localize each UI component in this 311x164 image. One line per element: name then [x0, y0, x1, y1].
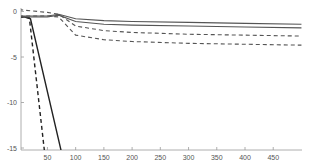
- line-chart: 0-5-10-15 50100150200250300350400450: [0, 0, 311, 164]
- x-tick-label: 50: [44, 154, 52, 161]
- y-ticks: 0-5-10-15: [7, 8, 24, 152]
- series-solid-steep: [19, 17, 61, 153]
- series-dashed-upper: [19, 10, 301, 36]
- x-tick-label: 300: [183, 154, 195, 161]
- y-tick-label: -5: [11, 54, 17, 61]
- series-lines: [19, 10, 301, 153]
- x-tick-label: 450: [267, 154, 279, 161]
- x-tick-label: 100: [70, 154, 82, 161]
- axes: 0-5-10-15 50100150200250300350400450: [7, 8, 302, 161]
- series-dashed-lower: [19, 16, 301, 45]
- x-tick-label: 250: [154, 154, 166, 161]
- x-tick-label: 400: [239, 154, 251, 161]
- x-tick-label: 350: [211, 154, 223, 161]
- x-ticks: 50100150200250300350400450: [44, 147, 280, 161]
- series-dashed-steep: [19, 17, 44, 153]
- x-tick-label: 150: [98, 154, 110, 161]
- y-tick-label: -10: [7, 99, 17, 106]
- x-tick-label: 200: [126, 154, 138, 161]
- y-tick-label: 0: [13, 8, 17, 15]
- y-tick-label: -15: [7, 145, 17, 152]
